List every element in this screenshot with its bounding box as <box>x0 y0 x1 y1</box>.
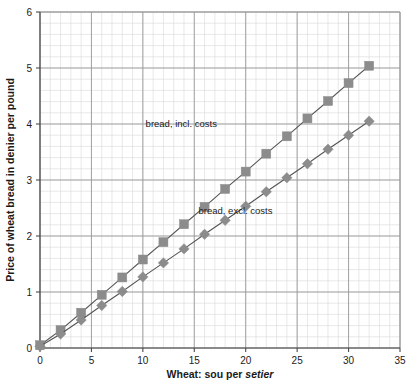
data-point-marker <box>344 79 353 88</box>
x-axis-tick-label: 0 <box>37 355 43 366</box>
y-axis-tick-label: 4 <box>26 119 32 130</box>
data-point-marker <box>365 61 374 70</box>
x-axis-tick-label: 5 <box>89 355 95 366</box>
y-axis-tick-label: 6 <box>26 7 32 18</box>
data-point-marker <box>262 149 271 158</box>
x-axis-tick-label: 15 <box>189 355 201 366</box>
chart-container: 0123456 05101520253035 bread, incl. cost… <box>0 0 420 383</box>
data-point-marker <box>97 290 106 299</box>
data-point-marker <box>180 220 189 229</box>
price-of-bread-line-chart: 0123456 05101520253035 bread, incl. cost… <box>0 0 420 383</box>
data-point-marker <box>282 132 291 141</box>
y-axis-tick-label: 2 <box>26 231 32 242</box>
data-point-marker <box>118 273 127 282</box>
y-axis-tick-label: 1 <box>26 287 32 298</box>
x-axis-title-plain: Wheat: sou per <box>167 368 246 380</box>
x-axis-tick-label: 30 <box>343 355 355 366</box>
data-point-marker <box>324 97 333 106</box>
y-axis-title: Price of wheat bread in denier per pound <box>4 78 16 282</box>
x-axis-tick-label: 20 <box>240 355 252 366</box>
x-axis-title: Wheat: sou per setier <box>167 368 275 380</box>
series-annotation-2: bread, excl. costs <box>199 205 273 216</box>
x-axis-tick-label: 10 <box>137 355 149 366</box>
series-annotation-1: bread, incl. costs <box>146 118 218 129</box>
data-point-marker <box>303 114 312 123</box>
x-axis-title-italic: setier <box>245 368 274 380</box>
x-axis-tick-label: 25 <box>292 355 304 366</box>
data-point-marker <box>241 167 250 176</box>
x-axis-tick-label: 35 <box>394 355 406 366</box>
data-point-marker <box>159 238 168 247</box>
data-point-marker <box>138 255 147 264</box>
y-axis-tick-label: 0 <box>26 343 32 354</box>
y-axis-tick-label: 5 <box>26 63 32 74</box>
y-axis-tick-label: 3 <box>26 175 32 186</box>
data-point-marker <box>221 184 230 193</box>
